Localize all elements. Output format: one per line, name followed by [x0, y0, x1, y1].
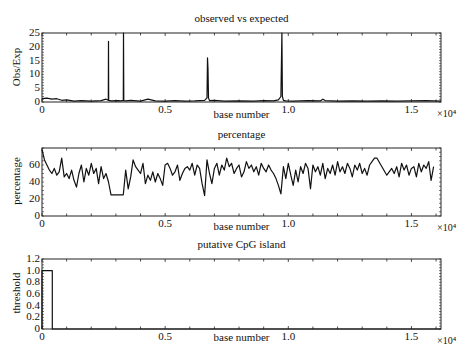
y-tick-label: 0.2: [26, 310, 40, 322]
y-tick-label: 0.8: [26, 275, 40, 287]
data-series-line: [42, 271, 441, 329]
y-tick-label: 1.2: [26, 252, 40, 264]
cpg-island-chart-xlabel: base number: [214, 331, 270, 343]
x-tick-label: 1.5: [405, 330, 419, 342]
x-multiplier-label: ×10⁴: [437, 335, 456, 346]
axes-frame: [42, 259, 441, 329]
cpg-island-chart-plot: [0, 0, 461, 362]
y-tick-label: 1.0: [26, 264, 40, 276]
x-tick-label: 0: [39, 330, 45, 342]
y-tick-label: 0.4: [26, 299, 40, 311]
x-tick-label: 1.0: [281, 330, 295, 342]
cpg-island-chart-ylabel: threshold: [10, 273, 22, 314]
cpg-island-chart-title: putative CpG island: [198, 238, 286, 250]
y-tick-label: 0: [35, 322, 41, 334]
y-tick-label: 0.6: [26, 287, 40, 299]
x-tick-label: 0.5: [158, 330, 172, 342]
